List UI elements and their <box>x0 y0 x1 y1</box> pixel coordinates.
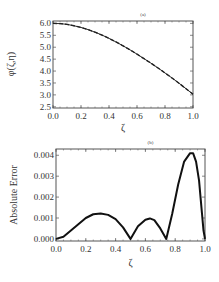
panel-a-x-axis-label: ζ <box>121 122 125 134</box>
panel-b-y-tick-label: 0.003 <box>34 171 55 181</box>
panel-a-y-tick-label: 4.5 <box>40 54 52 64</box>
panel-a-y-tick-label: 6.0 <box>40 18 52 28</box>
panel-b-plot-frame <box>56 149 205 241</box>
panel-a-x-tick-label: 0.6 <box>131 111 143 121</box>
panel-a-x-tick-label: 0.8 <box>159 111 171 121</box>
panel-a-plot-frame <box>53 21 193 108</box>
panel-b-x-tick-label: 0.4 <box>110 244 122 254</box>
chart-figure: (a)0.00.20.40.60.81.02.53.03.54.04.55.05… <box>0 0 219 282</box>
panel-a-x-tick-label: 0.0 <box>47 111 59 121</box>
panel-b-title: (b) <box>148 140 154 145</box>
panel-b-series-absolute-error <box>56 153 205 239</box>
panel-b-x-tick-label: 0.8 <box>170 244 182 254</box>
panel-a-x-tick-label: 0.4 <box>103 111 115 121</box>
panel-a-series-exact <box>53 23 193 94</box>
panel-b-x-tick-label: 0.0 <box>50 244 62 254</box>
panel-a-y-axis-label: φ(ζ,η) <box>5 52 17 76</box>
panel-b-x-tick-label: 0.6 <box>140 244 152 254</box>
panel-a-x-tick-label: 0.2 <box>75 111 86 121</box>
panel-a-x-tick-label: 1.0 <box>187 111 199 121</box>
panel-a-y-tick-label: 5.0 <box>40 42 52 52</box>
panel-b-y-tick-label: 0.002 <box>34 192 54 202</box>
panel-a-y-tick-label: 4.0 <box>40 66 52 76</box>
panel-b-x-tick-label: 0.2 <box>80 244 91 254</box>
panel-b-y-axis-label: Absolute Error <box>8 164 19 224</box>
panel-a-y-tick-label: 5.5 <box>40 30 52 40</box>
panel-a-y-tick-label: 3.5 <box>40 78 52 88</box>
panel-b-y-tick-label: 0.001 <box>34 213 54 223</box>
panel-b-x-axis-label: ζ <box>128 257 132 269</box>
panel-a-y-tick-label: 3.0 <box>40 90 52 100</box>
panel-b-x-tick-label: 1.0 <box>199 244 211 254</box>
panel-b-y-tick-label: 0.004 <box>34 150 55 160</box>
panel-b-y-tick-label: 0.000 <box>34 234 55 244</box>
panel-a-y-tick-label: 2.5 <box>40 102 52 112</box>
panel-a-title: (a) <box>140 12 146 17</box>
panel-a-series-approximate <box>53 23 193 94</box>
